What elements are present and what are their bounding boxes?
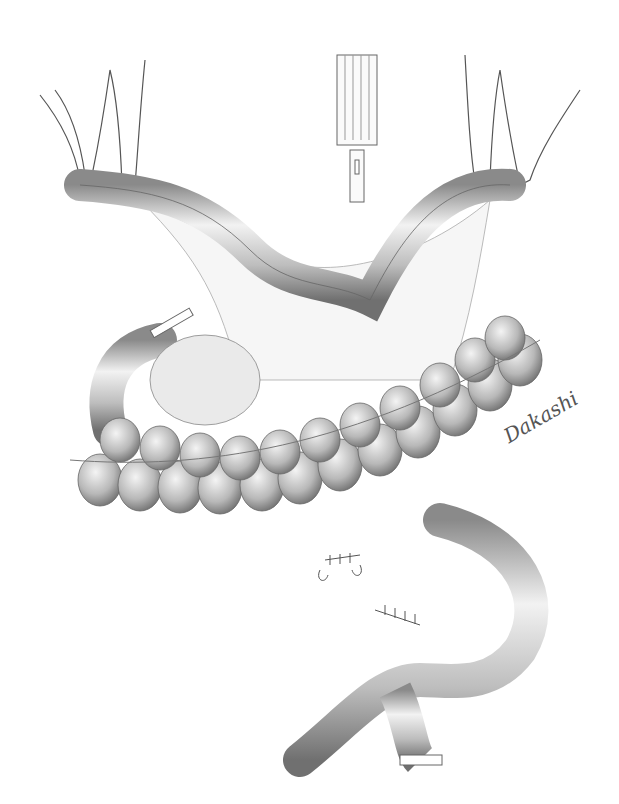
staple-line: [400, 755, 442, 765]
sutures: [319, 553, 420, 625]
omentum: [150, 335, 260, 425]
right-hand: [465, 55, 580, 185]
left-hand: [40, 60, 145, 185]
bowel-stump: [395, 690, 420, 760]
illustration-drawing: [0, 0, 619, 804]
stapler-device: [337, 55, 377, 202]
surgical-illustration: Dakashi: [0, 0, 619, 804]
